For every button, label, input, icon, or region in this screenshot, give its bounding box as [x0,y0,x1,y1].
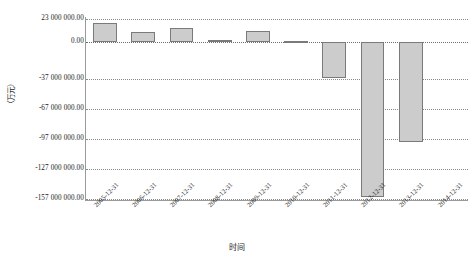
y-axis-tick-label: -157 000 000.00 [35,195,84,202]
y-axis-tick-label: -127 000 000.00 [35,165,84,172]
y-axis-tick-label: -97 000 000.00 [39,135,84,142]
bar [284,41,308,43]
bar [246,31,270,42]
bar [93,23,117,42]
gridline [86,169,468,170]
y-axis-tick-label: 23 000 000.00 [41,15,84,22]
x-axis-tick-labels: 2005-12-312006-12-312007-12-312008-12-31… [86,200,468,242]
y-axis-tick-label: 0.00 [71,38,84,45]
x-axis-title: 时间 [0,241,473,252]
y-axis-tick-label: -67 000 000.00 [39,105,84,112]
gridline [86,19,468,20]
bar [131,32,155,42]
bar [322,42,346,78]
bar [399,42,423,142]
bar-chart: （万元） 23 000 000.000.00-37 000 000.00-67 … [0,0,473,262]
bar [170,28,194,42]
y-axis-tick-labels: 23 000 000.000.00-37 000 000.00-67 000 0… [10,0,84,262]
y-axis-tick-label: -37 000 000.00 [39,75,84,82]
plot-area [86,19,468,199]
bar [361,42,385,197]
bar [208,40,232,42]
